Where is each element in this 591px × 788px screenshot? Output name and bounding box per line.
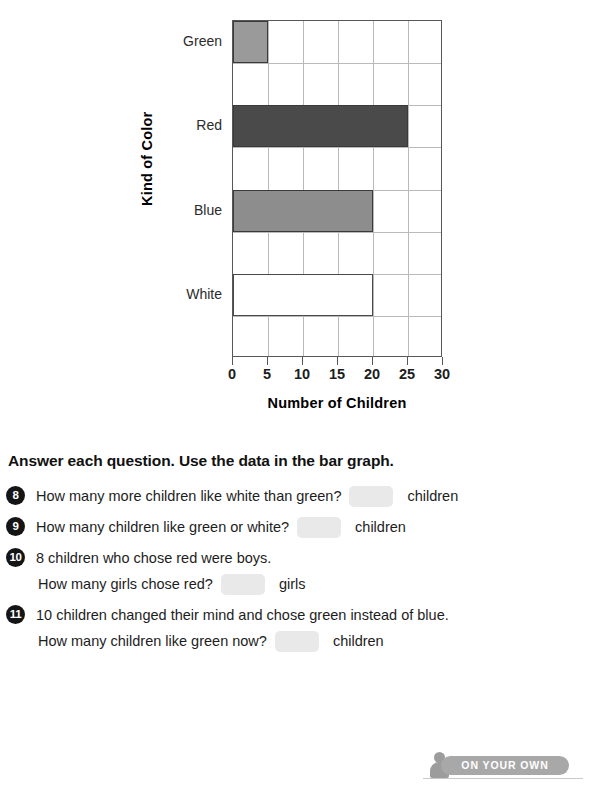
answer-blank[interactable] xyxy=(221,574,265,595)
question-10: 108 children who chose red were boys.How… xyxy=(0,547,591,595)
category-axis-labels: GreenRedBlueWhite xyxy=(160,20,228,357)
category-label-red: Red xyxy=(196,104,222,146)
x-tick xyxy=(267,357,268,365)
x-tick xyxy=(337,357,338,365)
question-number-badge: 9 xyxy=(6,517,25,536)
badge-divider xyxy=(423,778,583,779)
x-axis-tick-labels: 051015202530 xyxy=(232,366,442,386)
x-tick-label: 10 xyxy=(282,366,322,382)
badge-label: ON YOUR OWN xyxy=(441,756,569,775)
answer-unit-label: children xyxy=(333,633,384,649)
question-body: 8 children who chose red were boys.How m… xyxy=(36,547,591,595)
question-body: 10 children changed their mind and chose… xyxy=(36,604,591,652)
plot-area xyxy=(232,20,442,357)
question-11: 1110 children changed their mind and cho… xyxy=(0,604,591,652)
category-label-green: Green xyxy=(183,20,222,62)
x-tick xyxy=(407,357,408,365)
question-8: 8How many more children like white than … xyxy=(0,485,591,507)
question-text: 8 children who chose red were boys. xyxy=(36,550,271,566)
vertical-gridline xyxy=(373,21,374,356)
answer-unit-label: girls xyxy=(279,576,306,592)
x-tick-label: 30 xyxy=(422,366,462,382)
category-label-blue: Blue xyxy=(194,189,222,231)
answer-blank[interactable] xyxy=(275,631,319,652)
bar-blue xyxy=(233,190,373,232)
x-tick xyxy=(232,357,233,365)
question-text: How many more children like white than g… xyxy=(36,488,341,504)
y-axis-title: Kind of Color xyxy=(139,186,155,206)
bar-chart: Kind of Color GreenRedBlueWhite 05101520… xyxy=(0,0,591,440)
bar-red xyxy=(233,105,408,147)
question-line: 10 children changed their mind and chose… xyxy=(36,604,591,626)
horizontal-gridline xyxy=(233,147,441,148)
question-line: 8 children who chose red were boys. xyxy=(36,547,591,569)
question-text: 10 children changed their mind and chose… xyxy=(36,607,449,623)
answer-unit-label: children xyxy=(355,519,406,535)
answer-blank[interactable] xyxy=(297,517,341,538)
bar-white xyxy=(233,274,373,316)
x-tick xyxy=(302,357,303,365)
question-body: How many children like green or white?ch… xyxy=(36,516,591,538)
x-tick xyxy=(442,357,443,365)
questions-list: 8How many more children like white than … xyxy=(0,485,591,661)
question-text: How many girls chose red? xyxy=(38,576,213,592)
question-body: How many more children like white than g… xyxy=(36,485,591,507)
question-line: How many children like green now?childre… xyxy=(38,630,591,652)
x-tick-label: 25 xyxy=(387,366,427,382)
question-9: 9How many children like green or white?c… xyxy=(0,516,591,538)
x-tick-label: 20 xyxy=(352,366,392,382)
answer-blank[interactable] xyxy=(349,486,393,507)
x-axis-ticks xyxy=(232,357,442,365)
x-tick-label: 5 xyxy=(247,366,287,382)
question-text: How many children like green now? xyxy=(38,633,267,649)
on-your-own-badge: ON YOUR OWN xyxy=(423,752,583,780)
answer-unit-label: children xyxy=(407,488,458,504)
horizontal-gridline xyxy=(233,232,441,233)
x-tick-label: 0 xyxy=(212,366,252,382)
x-tick xyxy=(372,357,373,365)
category-label-white: White xyxy=(186,273,222,315)
question-text: How many children like green or white? xyxy=(36,519,289,535)
x-axis-title: Number of Children xyxy=(232,395,442,411)
question-line: How many children like green or white?ch… xyxy=(36,516,591,538)
vertical-gridline xyxy=(408,21,409,356)
bar-green xyxy=(233,21,268,63)
question-line: How many more children like white than g… xyxy=(36,485,591,507)
question-line: How many girls chose red?girls xyxy=(38,573,591,595)
question-number-badge: 8 xyxy=(6,486,25,505)
horizontal-gridline xyxy=(233,316,441,317)
directions-text: Answer each question. Use the data in th… xyxy=(8,452,394,470)
question-number-badge: 11 xyxy=(6,605,25,624)
x-tick-label: 15 xyxy=(317,366,357,382)
horizontal-gridline xyxy=(233,63,441,64)
question-number-badge: 10 xyxy=(6,548,25,567)
